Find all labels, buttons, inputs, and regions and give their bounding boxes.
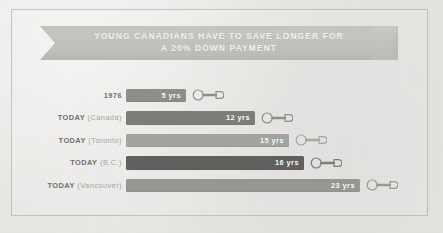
- row-label-soft: (B.C.): [98, 158, 123, 167]
- key-icon: [295, 133, 327, 147]
- chart-row: TODAY (Toronto) 15 yrs: [0, 129, 443, 152]
- bar-value-label: 15 yrs: [260, 136, 289, 145]
- bar-area: 16 yrs: [126, 152, 342, 175]
- bar-area: 5 yrs: [126, 84, 224, 107]
- title-banner: YOUNG CANADIANS HAVE TO SAVE LONGER FOR …: [40, 26, 398, 60]
- bar-area: 15 yrs: [126, 129, 327, 152]
- row-label-strong: TODAY: [59, 136, 86, 145]
- row-label: TODAY (Canada): [0, 113, 122, 122]
- chart-row: TODAY (Vancouver) 23 yrs: [0, 174, 443, 197]
- bar: 23 yrs: [126, 179, 360, 193]
- row-label: TODAY (B.C.): [0, 158, 122, 167]
- row-label-strong: 1976: [104, 91, 122, 100]
- bar-value-label: 12 yrs: [226, 113, 255, 122]
- row-label-soft: (Vancouver): [75, 181, 122, 190]
- bar-chart: 1976 5 yrs TODAY (Canada) 12 yrs: [0, 84, 443, 197]
- row-label-strong: TODAY: [70, 158, 97, 167]
- bar: 5 yrs: [126, 89, 186, 103]
- banner-title-line-2: A 20% DOWN PAYMENT: [161, 44, 277, 54]
- row-label: 1976: [0, 91, 122, 100]
- row-label: TODAY (Vancouver): [0, 181, 122, 190]
- key-icon: [192, 88, 224, 102]
- row-label-soft: (Toronto): [86, 136, 122, 145]
- key-icon: [366, 178, 398, 192]
- row-label-strong: TODAY: [58, 113, 85, 122]
- row-label-strong: TODAY: [48, 181, 75, 190]
- bar: 12 yrs: [126, 111, 255, 125]
- bar: 16 yrs: [126, 156, 304, 170]
- row-label: TODAY (Toronto): [0, 136, 122, 145]
- chart-row: TODAY (B.C.) 16 yrs: [0, 152, 443, 175]
- bar-area: 23 yrs: [126, 174, 398, 197]
- bar-value-label: 5 yrs: [161, 91, 186, 100]
- row-label-soft: (Canada): [85, 113, 122, 122]
- infographic-poster: YOUNG CANADIANS HAVE TO SAVE LONGER FOR …: [0, 0, 443, 233]
- bar-area: 12 yrs: [126, 107, 293, 130]
- banner-title-line-1: YOUNG CANADIANS HAVE TO SAVE LONGER FOR: [94, 32, 344, 42]
- banner-text-block: YOUNG CANADIANS HAVE TO SAVE LONGER FOR …: [40, 26, 398, 60]
- chart-row: TODAY (Canada) 12 yrs: [0, 107, 443, 130]
- bar-value-label: 23 yrs: [331, 181, 360, 190]
- key-icon: [310, 156, 342, 170]
- chart-row: 1976 5 yrs: [0, 84, 443, 107]
- bar: 15 yrs: [126, 134, 289, 148]
- bar-value-label: 16 yrs: [275, 158, 304, 167]
- key-icon: [261, 111, 293, 125]
